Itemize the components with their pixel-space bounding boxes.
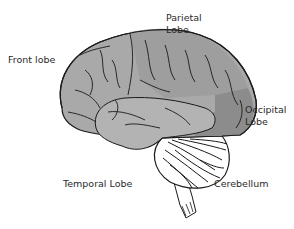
cerebellum-label: Cerebellum — [214, 178, 268, 190]
occipital-lobe-label-line1: Occipital — [245, 104, 286, 116]
parietal-lobe-label-line1: Parietal — [166, 12, 202, 24]
occipital-lobe-label-line2: Lobe — [245, 116, 268, 128]
parietal-lobe-label-line2: Lobe — [166, 24, 189, 36]
temporal-lobe-label: Temporal Lobe — [63, 178, 132, 190]
frontal-lobe-label: Front lobe — [8, 54, 55, 66]
cerebrum — [60, 29, 256, 150]
brain-diagram: Front lobe Parietal Lobe Occipital Lobe … — [0, 0, 294, 229]
